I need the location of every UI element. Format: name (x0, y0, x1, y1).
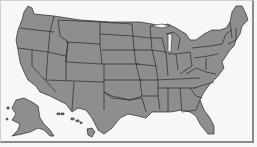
us-map (0, 0, 257, 147)
alaska (12, 98, 54, 136)
hawaii (57, 113, 95, 137)
lake-michigan (168, 34, 172, 52)
alaska-island (6, 118, 8, 120)
us-map-frame (0, 0, 257, 147)
alaska-island (7, 107, 9, 109)
